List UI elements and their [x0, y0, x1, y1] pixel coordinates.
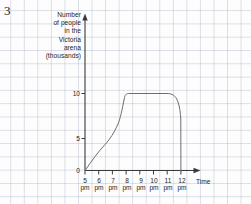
chart-plot-area [0, 0, 251, 204]
question-figure: 3 Number of people in the Victoria arena… [0, 0, 251, 204]
y-axis-arrow-icon [82, 14, 87, 21]
attendance-curve [85, 94, 181, 171]
x-axis-arrow-icon [194, 168, 201, 173]
